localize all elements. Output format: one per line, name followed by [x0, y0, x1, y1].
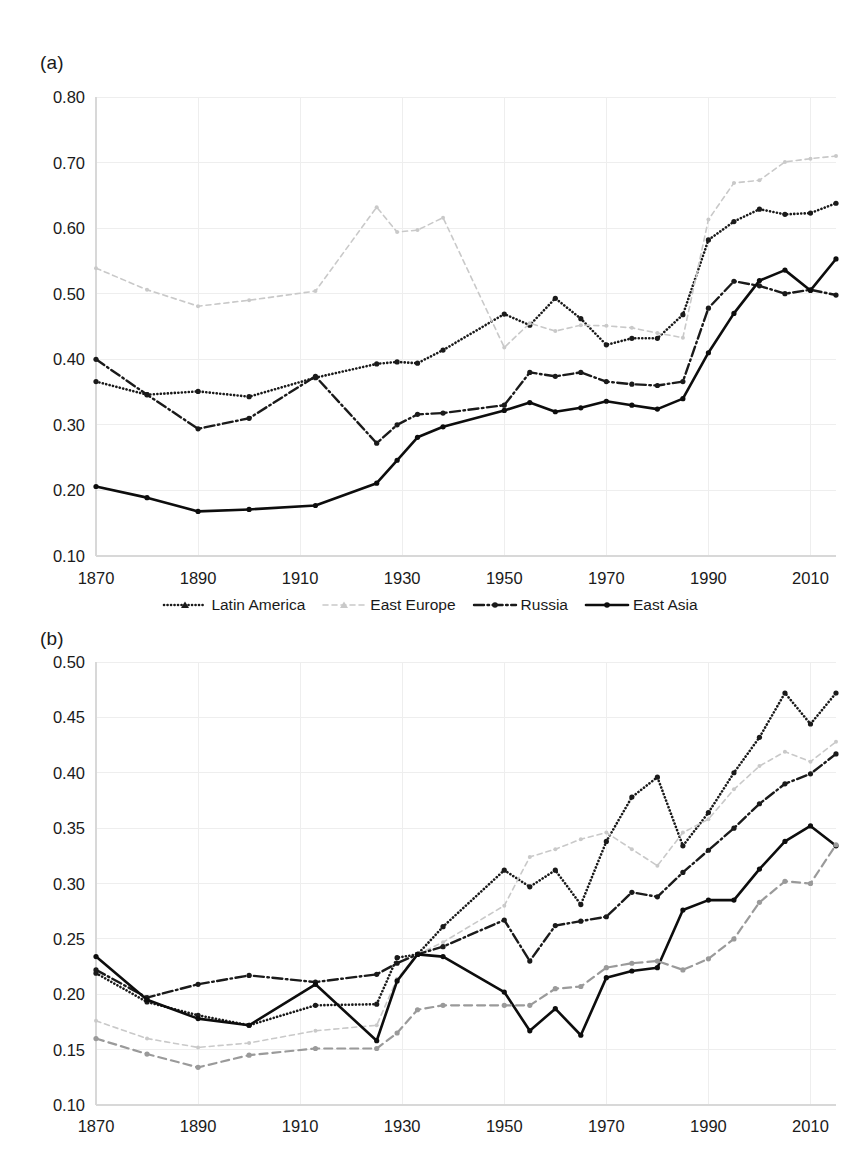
vertical-gridlines	[96, 97, 810, 556]
svg-text:1910: 1910	[282, 569, 319, 587]
svg-text:1950: 1950	[486, 1117, 523, 1135]
svg-text:1970: 1970	[588, 569, 625, 587]
svg-text:1950: 1950	[486, 569, 523, 587]
svg-text:0.50: 0.50	[53, 285, 85, 303]
chart-panel-b: (b) 0.100.150.200.250.300.350.400.450.50…	[0, 600, 860, 1165]
svg-text:2010: 2010	[792, 1117, 829, 1135]
x-tick-labels: 18701890191019301950197019902010	[78, 1117, 829, 1135]
svg-text:0.15: 0.15	[53, 1041, 85, 1059]
svg-text:0.10: 0.10	[53, 547, 85, 565]
svg-text:0.70: 0.70	[53, 154, 85, 172]
svg-text:1890: 1890	[180, 1117, 217, 1135]
chart-panel-a: (a) 0.100.200.300.400.500.600.700.801870…	[0, 0, 860, 600]
svg-text:0.35: 0.35	[53, 819, 85, 837]
series-latin-america	[93, 690, 838, 1027]
svg-text:1970: 1970	[588, 1117, 625, 1135]
series-east-europe	[94, 154, 838, 349]
svg-text:0.45: 0.45	[53, 708, 85, 726]
svg-text:1990: 1990	[690, 1117, 727, 1135]
svg-text:1870: 1870	[78, 1117, 115, 1135]
series-russia	[93, 751, 838, 1000]
horizontal-gridlines	[96, 662, 836, 1105]
svg-text:1870: 1870	[78, 569, 115, 587]
plot-svg: 0.100.200.300.400.500.600.700.8018701890…	[0, 0, 860, 600]
svg-text:0.10: 0.10	[53, 1096, 85, 1114]
svg-text:0.20: 0.20	[53, 481, 85, 499]
svg-text:0.20: 0.20	[53, 985, 85, 1003]
plot-svg: 0.100.150.200.250.300.350.400.450.501870…	[0, 600, 860, 1165]
y-tick-labels: 0.100.200.300.400.500.600.700.80	[53, 88, 85, 565]
figure-root: (a) 0.100.200.300.400.500.600.700.801870…	[0, 0, 860, 1165]
svg-text:1990: 1990	[690, 569, 727, 587]
series-latin-america	[93, 201, 838, 400]
svg-text:0.40: 0.40	[53, 764, 85, 782]
series-east-asia	[93, 256, 838, 514]
series-east-asia	[93, 823, 838, 1043]
x-tick-labels: 18701890191019301950197019902010	[78, 569, 829, 587]
svg-text:0.40: 0.40	[53, 350, 85, 368]
svg-text:0.80: 0.80	[53, 88, 85, 106]
svg-text:2010: 2010	[792, 569, 829, 587]
svg-text:1930: 1930	[384, 1117, 421, 1135]
panel-a-plot: 0.100.200.300.400.500.600.700.8018701890…	[0, 0, 860, 600]
svg-text:0.60: 0.60	[53, 219, 85, 237]
svg-text:1930: 1930	[384, 569, 421, 587]
svg-text:0.30: 0.30	[53, 416, 85, 434]
svg-text:1910: 1910	[282, 1117, 319, 1135]
svg-text:1890: 1890	[180, 569, 217, 587]
svg-text:0.25: 0.25	[53, 930, 85, 948]
svg-text:0.50: 0.50	[53, 653, 85, 671]
svg-text:0.30: 0.30	[53, 875, 85, 893]
panel-b-plot: 0.100.150.200.250.300.350.400.450.501870…	[0, 600, 860, 1165]
y-tick-labels: 0.100.150.200.250.300.350.400.450.50	[53, 653, 85, 1114]
series-world	[93, 842, 838, 1070]
